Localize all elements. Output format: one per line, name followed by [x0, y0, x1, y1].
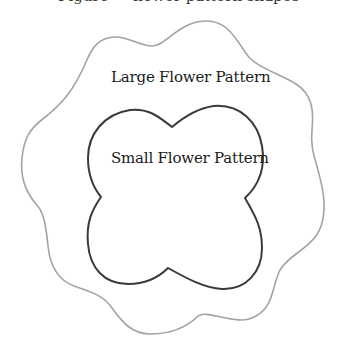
diagram-canvas: Figure — flower pattern shapes Large Flo…: [0, 0, 340, 347]
flower-patterns-illustration: [0, 0, 340, 347]
small-flower-pattern-label: Small Flower Pattern: [111, 149, 269, 167]
small-flower-pattern-outline: [88, 106, 263, 289]
large-flower-pattern-label: Large Flower Pattern: [111, 68, 270, 86]
